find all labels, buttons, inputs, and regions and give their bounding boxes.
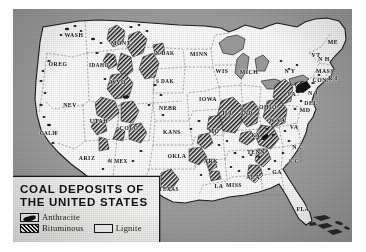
state-label-n-mex: N MEX (108, 158, 128, 164)
state-label-wash: WASH (64, 32, 83, 38)
state-label-ariz: ARIZ (79, 155, 96, 161)
lignite-swatch-icon (94, 224, 113, 233)
map-legend: COAL DEPOSITS OF THE UNITED STATES Anthr… (13, 176, 160, 242)
state-label-tenn: TENN (247, 149, 265, 155)
state-label-utah: UTAH (90, 118, 108, 124)
state-label-n-j: N J (308, 90, 318, 96)
state-label-n-c: N C (292, 144, 303, 150)
legend-title-line2: THE UNITED STATES (20, 196, 159, 209)
legend-row-bituminous-lignite: Bituminous Lignite (13, 222, 159, 233)
state-label-oreg: OREG (48, 61, 67, 67)
state-label-ohio: OHIO (259, 104, 277, 110)
state-label-del: DEL (304, 100, 317, 106)
state-label-md: MD (300, 107, 311, 113)
state-label-nev: NEV (63, 102, 77, 108)
state-label-mass: MASS (316, 68, 334, 74)
state-label-ky: KY (251, 132, 261, 138)
state-label-miss: MISS (226, 182, 242, 188)
state-label-ga: GA (272, 169, 282, 175)
state-label-la: LA (214, 183, 223, 189)
state-label-r-i: R I (328, 75, 337, 81)
legend-label-lignite: Lignite (116, 223, 142, 233)
legend-label-bituminous: Bituminous (42, 223, 84, 233)
state-label-n-y: N Y (284, 68, 295, 74)
map-figure: WASHOREGIDAHONEVCALIFUTAHARIZMONTWYOCOLO… (0, 0, 366, 252)
state-label-ala: ALA (246, 174, 260, 180)
state-label-ill: ILL (222, 110, 234, 116)
state-label-w-va: W VA (269, 117, 286, 123)
map-panel: WASHOREGIDAHONEVCALIFUTAHARIZMONTWYOCOLO… (13, 9, 352, 242)
state-label-idaho: IDAHO (89, 62, 109, 68)
state-label-n-dak: N DAK (155, 50, 174, 56)
legend-item-bituminous: Bituminous (20, 223, 84, 233)
state-label-calif: CALIF (40, 130, 59, 136)
legend-title: COAL DEPOSITS OF THE UNITED STATES (13, 177, 159, 211)
state-label-s-dak: S DAK (156, 78, 174, 84)
legend-item-anthracite: Anthracite (20, 212, 80, 222)
state-label-s-c: S C (289, 158, 299, 164)
state-label-kans: KANS (163, 129, 181, 135)
state-label-va: VA (290, 124, 299, 130)
state-label-wis: WIS (216, 68, 229, 74)
state-label-mo: MO (209, 128, 220, 134)
state-label-ind: IND (241, 110, 253, 116)
state-label-wyo: WYO (110, 79, 126, 85)
state-label-colo: COLO (119, 125, 138, 131)
legend-label-anthracite: Anthracite (42, 212, 80, 222)
state-label-nebr: NEBR (159, 105, 177, 111)
state-label-pa: PA (288, 91, 296, 97)
bituminous-swatch-icon (20, 224, 39, 233)
state-label-okla: OKLA (167, 153, 186, 159)
state-label-ark: ARK (204, 158, 218, 164)
legend-item-lignite: Lignite (94, 223, 142, 233)
state-label-n-h: N H (318, 56, 330, 62)
state-label-texas: TEXAS (159, 186, 179, 192)
state-label-mont: MONT (111, 40, 131, 46)
state-label-me: ME (328, 39, 338, 45)
state-label-fla: FLA (296, 206, 309, 212)
state-label-minn: MINN (190, 51, 208, 57)
legend-title-line1: COAL DEPOSITS OF (20, 183, 159, 196)
anthracite-swatch-icon (20, 213, 39, 222)
caribbean-islands (309, 215, 350, 235)
legend-row-anthracite: Anthracite (13, 211, 159, 222)
state-label-iowa: IOWA (199, 96, 217, 102)
state-label-mich: MICH (240, 69, 258, 75)
